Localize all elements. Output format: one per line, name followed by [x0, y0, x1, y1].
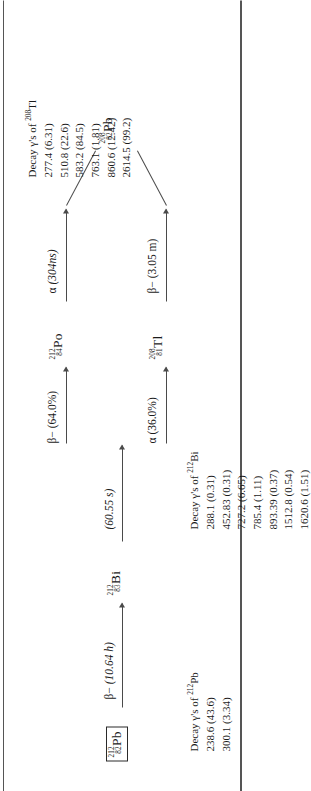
gamma-row: 763.1 (1.81) — [88, 99, 104, 177]
gamma-table-bi212: Decay γ's of 212Bi 288.1 (0.31) 452.83 (… — [186, 451, 246, 529]
nuclide-pb212: 212 82 Pb — [106, 726, 128, 761]
isotope-numbers-po212: 212 84 — [50, 348, 64, 359]
nuclide-po212: 212 84 Po — [50, 333, 66, 359]
particle-beta-minus-1: β− — [103, 687, 115, 699]
transition-label-bi212-halflife: (60.55 s) — [103, 488, 115, 529]
gamma-table-bi212-header: Decay γ's of 212Bi — [186, 451, 202, 529]
particle-alpha-1: α — [146, 437, 158, 443]
transition-label-pb212-bi212: β− (10.64 h) — [103, 642, 115, 699]
isotope-numbers-bi212: 212 83 — [108, 584, 122, 595]
transition-label-po212-pb208: α (304ns) — [46, 249, 58, 293]
halflife-3-05m: (3.05 m) — [146, 238, 158, 278]
arrow-bi212-halflife — [122, 445, 123, 541]
halflife-60-55s: (60.55 s) — [103, 488, 115, 529]
gamma-row: 583.2 (84.5) — [72, 99, 88, 177]
gamma-row: 727.2 (6.65) — [234, 451, 246, 529]
arrow-bi212-to-tl208 — [166, 367, 167, 443]
gamma-row: 860.6 (12.42) — [104, 99, 120, 177]
gamma-row: 300.1 (3.34) — [219, 672, 235, 751]
element-symbol-pb212: Pb — [109, 731, 124, 745]
gamma-table-pb212: Decay γ's of 212Pb 238.6 (43.6) 300.1 (3… — [186, 672, 234, 751]
transition-label-tl208-pb208: β− (3.05 m) — [146, 238, 158, 293]
page-rule-bottom — [240, 0, 242, 791]
transition-label-bi212-tl208: α (36.0%) — [146, 397, 158, 443]
gamma-table-tl208-header: Decay γ's of 208Tl — [24, 99, 40, 177]
decay-chain-figure: 212 82 Pb 212 83 Bi 212 84 Po 208 81 Tl — [0, 0, 246, 791]
gamma-row: 452.83 (0.31) — [219, 451, 235, 529]
particle-alpha-2: α — [46, 287, 58, 293]
isotope-numbers-tl208: 208 81 — [150, 348, 164, 359]
element-symbol-bi212: Bi — [108, 570, 123, 583]
particle-beta-minus-2: β− — [46, 431, 58, 443]
converge-line-lower — [137, 150, 167, 205]
gamma-row: 510.8 (22.6) — [57, 99, 73, 177]
gamma-table-tl208: Decay γ's of 208Tl 277.4 (6.31) 510.8 (2… — [24, 99, 135, 177]
nuclide-tl208: 208 81 Tl — [150, 335, 166, 359]
arrow-bi212-to-po212 — [66, 367, 67, 443]
nuclide-bi212: 212 83 Bi — [108, 570, 124, 595]
arrow-tl208-to-pb208 — [166, 209, 167, 301]
scan-page-rotated: 212 82 Pb 212 83 Bi 212 84 Po 208 81 Tl — [0, 0, 246, 791]
gamma-row: 288.1 (0.31) — [203, 451, 219, 529]
gamma-row: 2614.5 (99.2) — [119, 99, 135, 177]
gamma-row: 238.6 (43.6) — [203, 672, 219, 751]
branch-ratio-64pct: (64.0%) — [46, 390, 58, 427]
branch-ratio-36pct: (36.0%) — [146, 397, 158, 434]
gamma-row: 277.4 (6.31) — [41, 99, 57, 177]
particle-beta-minus-3: β− — [146, 281, 158, 293]
arrow-po212-to-pb208 — [66, 209, 67, 301]
arrow-pb212-to-bi212 — [122, 603, 123, 707]
gamma-table-pb212-header: Decay γ's of 212Pb — [186, 672, 202, 751]
page-rule-top — [3, 0, 4, 791]
isotope-numbers-pb212: 212 82 — [109, 746, 123, 757]
element-symbol-po212: Po — [50, 333, 65, 347]
transition-label-bi212-po212: β− (64.0%) — [46, 390, 58, 443]
halflife-304ns: (304ns) — [46, 249, 58, 284]
element-symbol-tl208: Tl — [150, 335, 165, 347]
halflife-10-64h: (10.64 h) — [103, 642, 115, 684]
